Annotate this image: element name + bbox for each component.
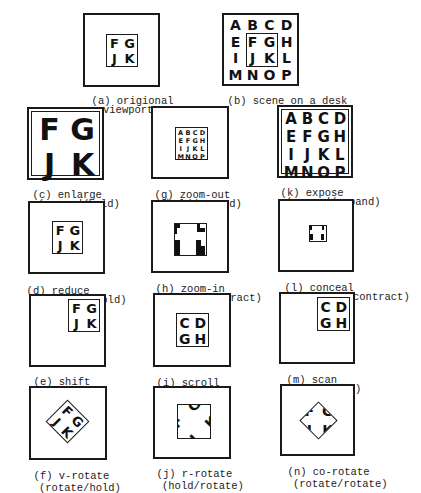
panel-f-window-rotated: F G J K [46, 400, 90, 444]
letter: J [305, 146, 311, 164]
letter: D [334, 110, 346, 128]
letter: C [318, 110, 329, 128]
letter: K [71, 147, 94, 182]
panel-n-window-rotated: F G J K [299, 401, 337, 439]
letter: G [179, 331, 191, 347]
letter: I [288, 146, 294, 164]
letter: L [335, 146, 345, 164]
letter: M [229, 67, 243, 83]
letter: F [177, 413, 186, 431]
letter: D [281, 17, 293, 33]
letter: P [281, 67, 291, 83]
letter: F [39, 112, 60, 147]
panel-m-letters: C D G H [318, 299, 349, 330]
panel-d-window: F G J K [52, 221, 83, 254]
panel-b-caption: (b) scene on a desk [215, 88, 347, 106]
letter: J [307, 422, 312, 438]
letter-fragment [197, 228, 205, 232]
letter: A [178, 129, 183, 137]
letter: A [230, 17, 241, 33]
panel-h-viewport [151, 200, 229, 273]
letter: C [264, 17, 274, 33]
panel-g-letters: A B C D E F G H I J K L M N O P [177, 129, 206, 158]
letter: L [282, 50, 291, 66]
letter: H [334, 128, 347, 146]
letter: J [112, 51, 117, 66]
letter-fragment [322, 226, 324, 230]
letter: F [304, 403, 314, 419]
letter: H [335, 315, 347, 331]
letter: O [192, 153, 198, 160]
panel-j-letters-rotated: F G J K [177, 404, 211, 439]
letter: F [56, 223, 65, 238]
panel-j-caption: (j) r-rotate(hold/rotate) [144, 461, 244, 493]
panel-k-letters: A B C D E F G H I J K L M N O P [283, 110, 348, 174]
letter: N [247, 67, 259, 83]
panel-c-letters: F G J K [33, 112, 99, 176]
letter: P [200, 153, 205, 160]
letter: G [70, 112, 95, 147]
panel-d-viewport: F G J K [28, 201, 105, 274]
panel-n-letters: F G J K [300, 402, 337, 439]
letter: I [233, 50, 238, 66]
letter: H [281, 34, 293, 50]
letter: K [318, 146, 330, 164]
letter: G [192, 137, 197, 145]
panel-n-caption: (n) co-rotate(rotate/rotate) [275, 459, 388, 493]
letter: H [200, 137, 205, 145]
panel-c-viewport: F G J K [27, 107, 104, 180]
letter: E [178, 137, 182, 145]
letter: D [335, 299, 347, 315]
letter: I [179, 145, 181, 153]
letter: G [69, 223, 80, 238]
panel-j-window: F G J K [177, 404, 211, 439]
letter: M [177, 153, 183, 160]
panel-i-viewport: C D G H [153, 293, 231, 367]
letter-fragment [310, 234, 313, 240]
letter-fragment [201, 246, 205, 255]
letter: B [185, 129, 190, 137]
panel-f-viewport: F G J K [29, 386, 107, 460]
panel-f-caption: (f) v-rotate(rotate/hold) [21, 463, 121, 493]
panel-i-letters: C D G H [177, 315, 208, 346]
letter: J [44, 147, 55, 182]
letter: J [74, 316, 79, 331]
panel-a-letters: F G J K [107, 36, 137, 66]
letter: K [201, 413, 211, 432]
letter: J [58, 238, 63, 253]
letter: G [322, 403, 334, 419]
letter: C [321, 299, 331, 315]
letter: O [264, 67, 276, 83]
letter: F [302, 128, 312, 146]
letter: G [320, 315, 332, 331]
letter-fragment [321, 234, 324, 240]
panel-n-viewport: F G J K [280, 384, 355, 456]
letter: K [193, 145, 198, 153]
letter: G [124, 36, 135, 51]
letter: E [231, 34, 241, 50]
letter: J [187, 145, 189, 153]
letter: J [186, 431, 201, 439]
letter-fragment [175, 240, 180, 255]
panel-m-viewport: C D G H [279, 292, 355, 364]
letter: B [302, 110, 313, 128]
panel-l-viewport [278, 199, 354, 272]
panel-i-window: C D G H [176, 313, 209, 347]
letter: F [72, 301, 81, 316]
letter: C [193, 129, 198, 137]
letter: L [200, 145, 204, 153]
letter: J [50, 415, 64, 429]
panel-a-viewport: F G J K [83, 13, 160, 87]
letter: A [285, 110, 297, 128]
letter: C [180, 315, 190, 331]
panel-b-scene: A B C D E F G H I J K L M N O P [222, 13, 299, 86]
panel-g-viewport: A B C D E F G H I J K L M N O P [151, 106, 229, 179]
letter: G [317, 128, 329, 146]
letter: D [194, 315, 206, 331]
letter: K [70, 238, 80, 253]
panel-e-letters: F G J K [69, 301, 99, 331]
panel-d-letters: F G J K [53, 223, 82, 253]
panel-e-window: F G J K [68, 299, 100, 332]
letter-fragment [310, 226, 312, 230]
letter: G [86, 301, 97, 316]
